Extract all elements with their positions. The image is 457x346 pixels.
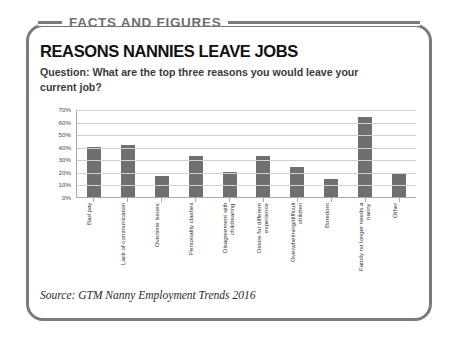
gridline xyxy=(77,123,416,124)
tick-slot xyxy=(110,198,144,202)
x-axis-tick-mark xyxy=(263,198,264,202)
x-axis-category-label: Boredom xyxy=(323,203,339,283)
gridline xyxy=(77,173,416,174)
gridline xyxy=(77,110,416,111)
screenshot-root: FACTS AND FIGURES REASONS NANNIES LEAVE … xyxy=(0,0,457,346)
x-axis-tick-mark xyxy=(399,198,400,202)
tick-slot xyxy=(280,198,314,202)
tick-slot xyxy=(314,198,348,202)
plot-area xyxy=(76,110,416,198)
gridline xyxy=(77,148,416,149)
x-label-slot: Boredom xyxy=(314,203,348,285)
y-axis-tick-label: 10% xyxy=(59,182,71,188)
y-axis-tick-label: 50% xyxy=(59,132,71,138)
chart-question: Question: What are the top three reasons… xyxy=(40,65,388,94)
x-axis-category-label: Disagreement with childrearing xyxy=(221,203,237,283)
x-axis-tick-mark xyxy=(229,198,230,202)
tick-slot xyxy=(382,198,416,202)
x-axis-tick-marks xyxy=(76,198,416,202)
page-title: REASONS NANNIES LEAVE JOBS xyxy=(40,42,298,61)
bar xyxy=(290,167,304,197)
x-axis-tick-mark xyxy=(93,198,94,202)
y-axis-tick-label: 0% xyxy=(62,195,71,201)
tick-slot xyxy=(212,198,246,202)
x-label-slot: Bad pay xyxy=(76,203,110,285)
y-axis-tick-label: 40% xyxy=(59,145,71,151)
x-label-slot: Other xyxy=(382,203,416,285)
gridline xyxy=(77,160,416,161)
x-axis-category-label: Overtime issues xyxy=(153,203,169,283)
x-label-slot: Personality clashes xyxy=(178,203,212,285)
tick-slot xyxy=(246,198,280,202)
y-axis-tick-label: 70% xyxy=(59,107,71,113)
x-axis-tick-mark xyxy=(297,198,298,202)
x-axis-category-label: Desire for different experience xyxy=(255,203,271,283)
y-axis-tick-label: 60% xyxy=(59,119,71,125)
x-label-slot: Lack of communication xyxy=(110,203,144,285)
tick-slot xyxy=(144,198,178,202)
x-axis-category-label: Lack of communication xyxy=(119,203,135,283)
x-axis-tick-mark xyxy=(161,198,162,202)
y-axis-tick-label: 20% xyxy=(59,170,71,176)
plot-area-wrapper: 0%10%20%30%40%50%60%70% xyxy=(44,110,416,198)
bar xyxy=(121,145,135,197)
source-caption: Source: GTM Nanny Employment Trends 2016 xyxy=(40,289,255,301)
y-axis: 0%10%20%30%40%50%60%70% xyxy=(44,110,74,198)
x-label-slot: Disagreement with childrearing xyxy=(212,203,246,285)
x-axis-tick-mark xyxy=(331,198,332,202)
tick-slot xyxy=(178,198,212,202)
x-label-slot: Overwhelming/difficult children xyxy=(280,203,314,285)
tick-slot xyxy=(76,198,110,202)
x-label-slot: Family no longer needs a nanny xyxy=(348,203,382,285)
x-axis-category-label: Bad pay xyxy=(85,203,101,283)
x-axis-labels: Bad payLack of communicationOvertime iss… xyxy=(76,203,416,285)
bar-chart: 0%10%20%30%40%50%60%70% Bad payLack of c… xyxy=(44,110,416,285)
gridline xyxy=(77,135,416,136)
x-axis-category-label: Personality clashes xyxy=(187,203,203,283)
card-content: REASONS NANNIES LEAVE JOBS Question: Wha… xyxy=(26,24,432,321)
x-label-slot: Overtime issues xyxy=(144,203,178,285)
y-axis-tick-label: 30% xyxy=(59,157,71,163)
bar xyxy=(189,156,203,197)
x-axis-tick-mark xyxy=(195,198,196,202)
x-label-slot: Desire for different experience xyxy=(246,203,280,285)
bar xyxy=(256,156,270,197)
bar xyxy=(223,172,237,197)
tick-slot xyxy=(348,198,382,202)
x-axis-category-label: Family no longer needs a nanny xyxy=(357,203,373,283)
x-axis-category-label: Overwhelming/difficult children xyxy=(289,203,305,283)
x-axis-tick-mark xyxy=(365,198,366,202)
x-axis-tick-mark xyxy=(127,198,128,202)
gridline xyxy=(77,185,416,186)
bar xyxy=(324,179,338,197)
x-axis-category-label: Other xyxy=(391,203,407,283)
